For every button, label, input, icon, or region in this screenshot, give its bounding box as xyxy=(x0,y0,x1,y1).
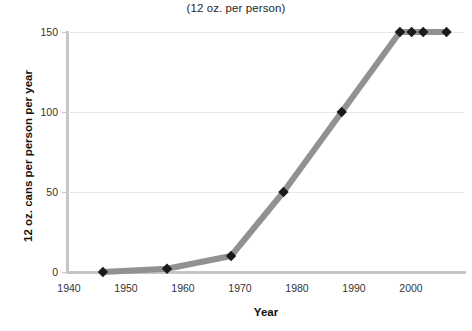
x-axis-title: Year xyxy=(68,306,464,318)
gridline-150 xyxy=(68,32,464,33)
plot-area xyxy=(68,32,464,272)
y-tick-mark-100 xyxy=(62,112,67,113)
x-tick-label-1940: 1940 xyxy=(41,283,97,294)
x-tick-label-1950: 1950 xyxy=(98,283,154,294)
x-tick-label-1960: 1960 xyxy=(155,283,211,294)
chart-container: (12 oz. per person) 150 100 50 0 1940 19… xyxy=(0,0,472,331)
gridline-50 xyxy=(68,192,464,193)
y-tick-mark-0 xyxy=(62,272,67,273)
y-tick-label-150: 150 xyxy=(12,27,58,37)
y-tick-mark-150 xyxy=(62,32,67,33)
gridline-100 xyxy=(68,112,464,113)
y-tick-label-50: 50 xyxy=(12,187,58,197)
x-tick-label-1990: 1990 xyxy=(326,283,382,294)
y-tick-label-0: 0 xyxy=(12,267,58,277)
x-tick-label-1970: 1970 xyxy=(212,283,268,294)
y-axis-title: 12 oz. cans per person per year xyxy=(22,36,34,276)
y-tick-mark-50 xyxy=(62,192,67,193)
x-tick-label-2000: 2000 xyxy=(383,283,439,294)
x-tick-label-1980: 1980 xyxy=(269,283,325,294)
y-tick-label-100: 100 xyxy=(12,107,58,117)
chart-title: (12 oz. per person) xyxy=(0,2,472,14)
